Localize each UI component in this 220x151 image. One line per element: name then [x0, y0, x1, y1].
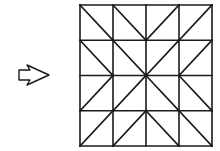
cell-diagonal	[146, 76, 179, 111]
cell-diagonal	[179, 40, 212, 75]
cell-diagonal	[146, 111, 179, 146]
cell-diagonal	[179, 111, 212, 146]
cell-diagonal	[80, 111, 113, 146]
cell-diagonal	[80, 76, 113, 111]
diagonal-grid-diagram	[78, 3, 214, 148]
cell-diagonal	[113, 76, 146, 111]
cell-diagonal	[80, 40, 113, 75]
cell-diagonal	[179, 5, 212, 40]
cell-diagonal	[146, 5, 179, 40]
cell-diagonal	[80, 5, 113, 40]
cell-diagonal	[113, 40, 146, 75]
right-arrow-icon	[16, 60, 52, 90]
cell-diagonal	[113, 111, 146, 146]
cell-diagonal	[146, 40, 179, 75]
cell-diagonal	[179, 76, 212, 111]
cell-diagonal	[113, 5, 146, 40]
